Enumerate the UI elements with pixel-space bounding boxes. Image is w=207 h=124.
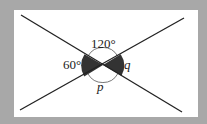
line-ascending [20,18,184,110]
label-right-angle: q [124,57,131,72]
label-bottom-angle: p [96,79,104,94]
line-descending [21,15,182,112]
intersecting-lines-diagram: 120° 60° q p [0,0,207,124]
label-left-angle: 60° [63,57,81,72]
label-top-angle: 120° [91,36,116,51]
